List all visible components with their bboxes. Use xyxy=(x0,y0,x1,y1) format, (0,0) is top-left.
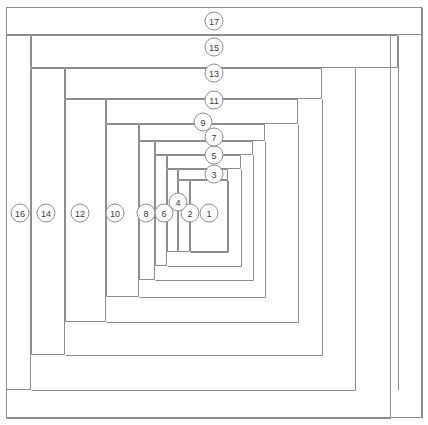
marker-label-10: 10 xyxy=(110,209,120,219)
marker-label-14: 14 xyxy=(41,209,51,219)
marker-label-13: 13 xyxy=(209,69,219,79)
piece-marker-11: 11 xyxy=(205,91,223,109)
piece-marker-14: 14 xyxy=(37,204,55,222)
marker-label-8: 8 xyxy=(143,209,148,219)
strip-5 xyxy=(168,156,241,169)
piece-marker-3: 3 xyxy=(205,165,223,183)
piece-marker-15: 15 xyxy=(205,38,223,56)
marker-label-5: 5 xyxy=(211,151,216,161)
piece-marker-17: 17 xyxy=(205,12,223,30)
piece-marker-16: 16 xyxy=(11,204,29,222)
marker-label-1: 1 xyxy=(206,209,211,219)
piece-marker-7: 7 xyxy=(205,128,223,146)
strip-13 xyxy=(66,69,322,99)
piece-marker-5: 5 xyxy=(205,146,223,164)
marker-label-2: 2 xyxy=(187,209,192,219)
marker-label-16: 16 xyxy=(15,209,25,219)
piece-marker-13: 13 xyxy=(205,64,223,82)
marker-label-6: 6 xyxy=(161,209,166,219)
marker-label-9: 9 xyxy=(200,118,205,128)
piece-marker-1: 1 xyxy=(200,204,218,222)
log-cabin-block-diagram: Log Cabin Block Piecing Order 1234567891… xyxy=(0,0,428,425)
piece-marker-9: 9 xyxy=(194,113,212,131)
piece-marker-6: 6 xyxy=(155,204,173,222)
marker-label-17: 17 xyxy=(209,17,219,27)
piece-marker-10: 10 xyxy=(106,204,124,222)
marker-label-12: 12 xyxy=(75,209,85,219)
piece-marker-12: 12 xyxy=(71,204,89,222)
marker-label-4: 4 xyxy=(175,198,180,208)
piece-marker-8: 8 xyxy=(137,204,155,222)
marker-label-7: 7 xyxy=(211,133,216,143)
marker-label-15: 15 xyxy=(209,43,219,53)
marker-label-3: 3 xyxy=(211,170,216,180)
strip-7 xyxy=(156,142,253,155)
marker-label-11: 11 xyxy=(209,96,218,106)
